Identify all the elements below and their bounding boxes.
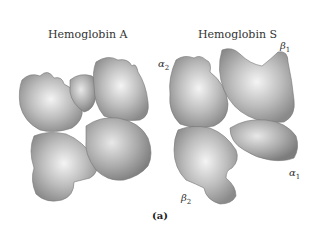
panel-title-hemoglobin-s: Hemoglobin S bbox=[198, 28, 277, 41]
figure-caption: (a) bbox=[152, 210, 168, 221]
subunit-label-alpha1: α1 bbox=[289, 167, 300, 181]
hemoglobin-a-structure bbox=[19, 57, 151, 201]
hemoglobin-s-structure bbox=[170, 49, 298, 204]
panel-title-hemoglobin-a: Hemoglobin A bbox=[48, 28, 127, 41]
subunit-label-beta2: β2 bbox=[181, 192, 191, 206]
subunit-label-alpha2: α2 bbox=[158, 58, 169, 72]
subunit-label-beta1: β1 bbox=[280, 40, 290, 54]
